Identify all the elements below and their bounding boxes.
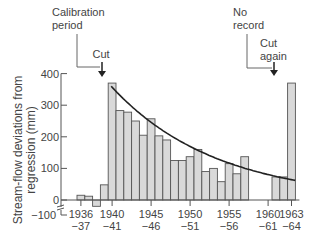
bar-1943-44: [132, 121, 140, 200]
bar-1955-56: [225, 164, 233, 200]
bar-1945-46: [147, 119, 155, 200]
annotation-no-record: No: [233, 6, 247, 18]
annotation-calibration-period: period: [52, 19, 83, 31]
x-tick-label: 1955: [217, 208, 241, 220]
x-tick-label: 1945: [139, 208, 163, 220]
annotation-cut-again: again: [260, 50, 287, 62]
bar-1947-48: [163, 140, 171, 200]
annotation-no-record: record: [233, 19, 264, 31]
y-axis-label-line: regression (mm): [24, 106, 38, 193]
y-tick-label: 200: [41, 131, 59, 143]
bar-1951-52: [194, 149, 202, 200]
y-tick-label: −100: [31, 209, 56, 221]
y-tick-label: 100: [41, 162, 59, 174]
bar-1939-40: [100, 185, 108, 200]
x-tick-label: 1940: [100, 208, 124, 220]
annotations: CalibrationperiodCutNorecordCutagain: [52, 6, 287, 77]
bar-1952-53: [202, 172, 210, 200]
y-tick-label: 300: [41, 99, 59, 111]
x-tick-label: 1936: [69, 208, 93, 220]
bar-1946-47: [155, 136, 163, 200]
bar-1942-43: [124, 112, 132, 200]
bar-1949-50: [178, 161, 186, 201]
bar-1961-62: [272, 177, 280, 200]
annotation-cut-again: Cut: [260, 37, 277, 49]
bar-1940-41: [108, 83, 116, 200]
y-axis-label: Stream-flow deviations fromregression (m…: [11, 76, 38, 225]
x-tick-label: −64: [282, 220, 301, 232]
bar-1963-64: [288, 83, 296, 200]
bar-1937-38: [85, 196, 93, 200]
bar-1962-63: [280, 177, 288, 200]
bar-1948-49: [171, 161, 179, 201]
bar-1953-54: [210, 168, 218, 200]
bar-1956-57: [233, 174, 241, 200]
bar-1957-58: [241, 157, 249, 200]
bar-1936-37: [77, 195, 85, 200]
x-tick-label: −41: [103, 220, 122, 232]
x-tick-label: −61: [259, 220, 278, 232]
bar-1954-55: [217, 182, 225, 200]
x-tick-label: −46: [142, 220, 161, 232]
annotation-calibration-period: Calibration: [52, 6, 105, 18]
bar-1941-42: [116, 111, 124, 200]
x-tick-label: 1950: [178, 208, 202, 220]
annotation-cut: Cut: [92, 48, 109, 60]
stream-flow-chart: CalibrationperiodCutNorecordCutagain 010…: [0, 0, 317, 243]
y-tick-label: 0: [53, 194, 59, 206]
x-tick-label: −56: [220, 220, 239, 232]
x-tick-label: −51: [181, 220, 200, 232]
x-tick-label: −37: [72, 220, 91, 232]
x-tick-label: 1960: [256, 208, 280, 220]
bar-1950-51: [186, 157, 194, 200]
bar-1938-39: [93, 200, 101, 206]
y-axis-label-line: Stream-flow deviations from: [11, 76, 25, 225]
bar-1944-45: [139, 135, 147, 200]
x-tick-label: 1963: [279, 208, 303, 220]
y-tick-label: 400: [41, 68, 59, 80]
